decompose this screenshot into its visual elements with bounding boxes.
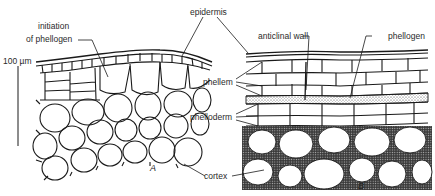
label-epidermis: epidermis bbox=[190, 7, 227, 17]
label-of-phellogen: of phellogen bbox=[26, 34, 72, 44]
panel-label-a: A bbox=[150, 163, 156, 173]
phellogen-band bbox=[246, 93, 428, 104]
panel-b-drawing bbox=[246, 50, 428, 100]
label-anticlinal-wall: anticlinal wall bbox=[258, 31, 308, 41]
scale-bar-label: 100 µm bbox=[3, 56, 32, 66]
label-phellogen: phellogen bbox=[388, 31, 425, 41]
label-cortex: cortex bbox=[204, 171, 227, 181]
label-phellem: phellem bbox=[203, 77, 233, 87]
panel-label-b: B bbox=[358, 181, 364, 191]
panel-b-cortex bbox=[242, 126, 432, 190]
panel-a-drawing bbox=[33, 50, 212, 180]
label-phelloderm: phelloderm bbox=[190, 112, 232, 122]
phelloderm-cells bbox=[246, 102, 428, 126]
label-initiation: initiation bbox=[38, 21, 69, 31]
